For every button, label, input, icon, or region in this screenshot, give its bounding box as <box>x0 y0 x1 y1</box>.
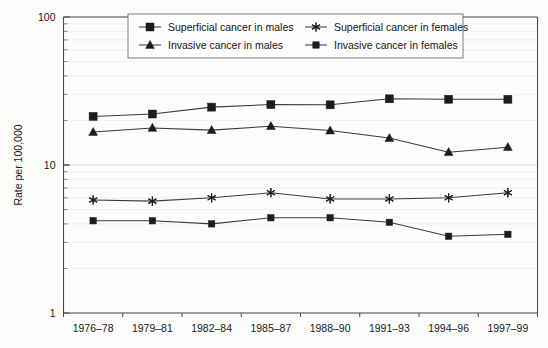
data-point-marker <box>385 95 393 103</box>
data-point-marker <box>149 218 155 224</box>
data-point-marker <box>327 215 333 221</box>
x-tick-label: 1997–99 <box>487 322 528 334</box>
data-point-marker <box>89 112 97 120</box>
y-axis-tick-labels: 110100 <box>38 11 56 319</box>
data-point-marker <box>208 221 214 227</box>
grid-lines <box>64 17 538 313</box>
y-tick-label: 10 <box>44 159 56 171</box>
data-point-marker <box>386 219 392 225</box>
legend-label: Superficial cancer in females <box>334 21 468 33</box>
x-tick-label: 1985–87 <box>250 322 291 334</box>
chart-legend: Superficial cancer in malesSuperficial c… <box>128 14 468 58</box>
x-tick-label: 1982–84 <box>191 322 232 334</box>
data-point-marker <box>208 103 216 111</box>
y-axis-title: Rate per 100,000 <box>12 124 24 205</box>
x-tick-label: 1979–81 <box>132 322 173 334</box>
y-tick-label: 1 <box>50 307 56 319</box>
x-tick-label: 1976–78 <box>73 322 114 334</box>
data-point-marker <box>268 215 274 221</box>
x-tick-label: 1994–96 <box>428 322 469 334</box>
data-point-marker <box>326 101 334 109</box>
data-point-marker <box>146 23 154 31</box>
legend-label: Superficial cancer in males <box>168 21 293 33</box>
data-point-marker <box>504 95 512 103</box>
data-point-marker <box>148 110 156 118</box>
chart-container: 110100 1976–781979–811982–841985–871988–… <box>0 0 548 348</box>
y-tick-label: 100 <box>38 11 56 23</box>
legend-label: Invasive cancer in males <box>168 39 283 51</box>
data-point-marker <box>90 218 96 224</box>
data-point-marker <box>445 233 451 239</box>
y-axis-title-text: Rate per 100,000 <box>12 124 24 205</box>
legend-label: Invasive cancer in females <box>334 39 458 51</box>
data-point-marker <box>505 231 511 237</box>
x-tick-label: 1991–93 <box>369 322 410 334</box>
data-point-marker <box>313 42 319 48</box>
data-point-marker <box>267 101 275 109</box>
x-tick-label: 1988–90 <box>310 322 351 334</box>
data-point-marker <box>445 95 453 103</box>
line-chart: 110100 1976–781979–811982–841985–871988–… <box>0 0 548 348</box>
x-axis-tick-labels: 1976–781979–811982–841985–871988–901991–… <box>73 322 529 334</box>
